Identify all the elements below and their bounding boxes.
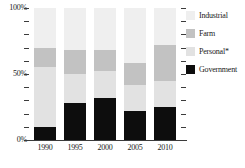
- legend-label-personal: Personal*: [199, 47, 229, 56]
- legend-label-industrial: Industrial: [199, 11, 228, 20]
- legend-swatch-personal: [186, 47, 195, 56]
- bar-segment-industrial-2000[interactable]: [94, 8, 116, 50]
- bar-segment-industrial-2010[interactable]: [154, 8, 176, 45]
- legend: Industrial Farm Personal* Government: [186, 6, 245, 78]
- bar-group[interactable]: [34, 8, 56, 140]
- tick-left-30: [24, 100, 29, 101]
- tick-left-10: [24, 127, 29, 128]
- tick-left-20: [24, 114, 29, 115]
- bar-segment-industrial-2005[interactable]: [124, 8, 146, 63]
- x-axis-label-2000: 2000: [90, 143, 120, 153]
- tick-left-50: [24, 74, 29, 75]
- bar-segment-personal-1990[interactable]: [34, 67, 56, 126]
- bar-group[interactable]: [94, 8, 116, 140]
- y-axis-labels: 100% 50% 0%: [0, 0, 27, 168]
- legend-item-farm[interactable]: Farm: [186, 24, 245, 42]
- bar-segment-personal-1995[interactable]: [64, 74, 86, 103]
- legend-swatch-government: [186, 65, 195, 74]
- legend-swatch-farm: [186, 29, 195, 38]
- x-axis-labels: 1990 1995 2000 2005 2010: [30, 143, 180, 157]
- tick-left-40: [24, 87, 29, 88]
- bar-segment-government-2010[interactable]: [154, 107, 176, 140]
- tick-left-80: [24, 34, 29, 35]
- stacked-bar-chart: 100% 50% 0% 1990 199: [0, 0, 245, 168]
- bar-segment-personal-2000[interactable]: [94, 71, 116, 97]
- tick-right-10: [181, 127, 186, 128]
- legend-label-farm: Farm: [199, 29, 215, 38]
- legend-swatch-industrial: [186, 11, 195, 20]
- bar-segment-farm-2005[interactable]: [124, 63, 146, 84]
- x-axis-label-2010: 2010: [150, 143, 180, 153]
- bar-segment-government-1990[interactable]: [34, 127, 56, 140]
- x-axis-label-1995: 1995: [60, 143, 90, 153]
- tick-right-20: [181, 114, 186, 115]
- bar-segment-farm-2010[interactable]: [154, 45, 176, 81]
- x-axis-label-2005: 2005: [120, 143, 150, 153]
- tick-right-30: [181, 100, 186, 101]
- bar-group[interactable]: [124, 8, 146, 140]
- legend-item-personal[interactable]: Personal*: [186, 42, 245, 60]
- bar-segment-government-2000[interactable]: [94, 98, 116, 140]
- plot-area: [30, 8, 180, 140]
- tick-left-100: [24, 8, 29, 9]
- legend-item-government[interactable]: Government: [186, 60, 245, 78]
- bar-segment-government-2005[interactable]: [124, 111, 146, 140]
- bar-segment-industrial-1995[interactable]: [64, 8, 86, 50]
- x-axis-line: [24, 140, 187, 141]
- tick-right-40: [181, 87, 186, 88]
- bar-group[interactable]: [154, 8, 176, 140]
- x-axis-label-1990: 1990: [30, 143, 60, 153]
- bar-segment-farm-1990[interactable]: [34, 48, 56, 68]
- tick-left-90: [24, 21, 29, 22]
- legend-label-government: Government: [199, 65, 237, 74]
- bar-group[interactable]: [64, 8, 86, 140]
- bar-segment-personal-2010[interactable]: [154, 81, 176, 107]
- legend-item-industrial[interactable]: Industrial: [186, 6, 245, 24]
- bar-segment-farm-2000[interactable]: [94, 50, 116, 71]
- tick-left-60: [24, 61, 29, 62]
- bar-segment-industrial-1990[interactable]: [34, 8, 56, 48]
- bar-segment-government-1995[interactable]: [64, 103, 86, 140]
- tick-left-70: [24, 48, 29, 49]
- bar-segment-farm-1995[interactable]: [64, 50, 86, 74]
- bar-segment-personal-2005[interactable]: [124, 85, 146, 111]
